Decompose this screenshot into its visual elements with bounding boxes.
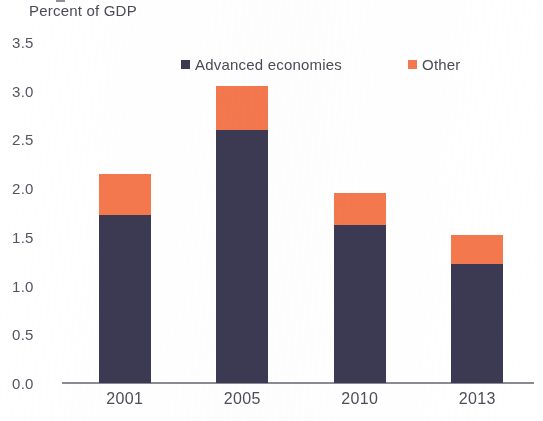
bar-segment [216,86,268,130]
legend-label: Other [422,56,461,73]
bar-segment [334,225,386,383]
bar-segment [99,215,151,383]
y-axis-tick-label: 2.0 [12,180,52,197]
legend: Advanced economiesOther [181,56,461,73]
bar-group [451,42,503,383]
y-axis-tick-label: 0.0 [12,375,52,392]
x-axis-tick-label: 2001 [75,390,175,408]
bar-segment [451,235,503,264]
bar-segment [334,193,386,225]
bar-segment [99,174,151,216]
bar-group [99,42,151,383]
bar-group [216,42,268,383]
x-axis-tick-label: 2013 [427,390,527,408]
y-axis-tick-label: 1.0 [12,277,52,294]
y-axis-tick-label: 2.5 [12,131,52,148]
legend-label: Advanced economies [195,56,342,73]
plot-area [66,42,536,383]
y-axis-tick-label: 3.0 [12,82,52,99]
legend-swatch-icon [181,60,190,69]
legend-swatch-icon [408,60,417,69]
legend-entry: Other [408,56,461,73]
bar-segment [216,130,268,383]
bar-segment [451,264,503,383]
zero-tick-mark [56,0,65,2]
y-axis-tick-label: 1.5 [12,228,52,245]
y-axis-title: Percent of GDP [29,2,137,19]
x-axis-tick-label: 2005 [192,390,292,408]
bar-group [334,42,386,383]
bar-chart: Percent of GDP 3.53.02.52.01.51.00.50.0 … [0,0,543,421]
legend-entry: Advanced economies [181,56,342,73]
y-axis-tick-label: 0.5 [12,326,52,343]
y-axis-tick-label: 3.5 [12,34,52,51]
x-axis-tick-label: 2010 [310,390,410,408]
